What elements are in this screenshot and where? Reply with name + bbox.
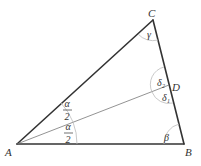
angle-label-alpha-half-upper: α 2 xyxy=(63,98,72,122)
svg-text:2: 2 xyxy=(66,134,71,145)
angle-label-beta: β xyxy=(163,132,169,143)
svg-text:2: 2 xyxy=(162,83,165,89)
angle-label-delta1: δ 1 xyxy=(162,92,170,104)
angle-label-alpha-half-lower: α 2 xyxy=(64,121,73,145)
bisector-ad xyxy=(17,85,169,144)
angle-label-gamma: γ xyxy=(147,29,152,40)
angle-label-delta2: δ 2 xyxy=(157,77,165,89)
vertex-label-b: B xyxy=(185,146,192,158)
angle-arc-a-lower xyxy=(73,122,77,144)
triangle-diagram: C D B A γ β δ 2 δ 1 α 2 α 2 xyxy=(0,0,201,166)
svg-text:α: α xyxy=(64,98,70,109)
vertex-label-c: C xyxy=(148,7,156,19)
vertex-label-a: A xyxy=(4,146,12,158)
svg-text:α: α xyxy=(65,121,71,132)
svg-text:1: 1 xyxy=(167,98,170,104)
side-ca xyxy=(17,20,153,144)
vertex-label-d: D xyxy=(171,81,180,93)
